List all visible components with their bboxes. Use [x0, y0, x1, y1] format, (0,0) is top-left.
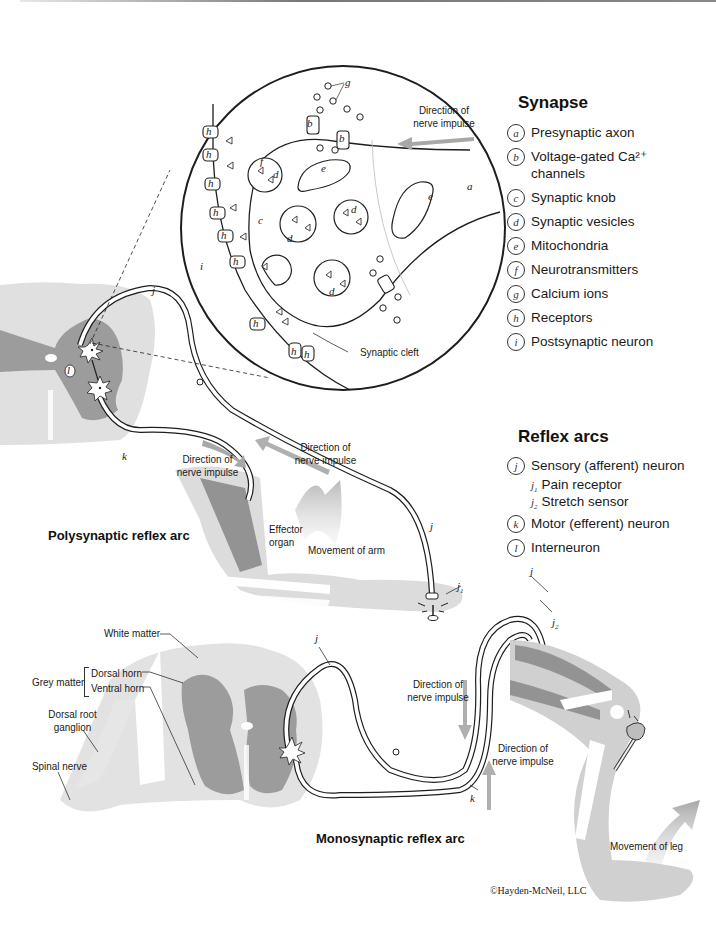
mono-label-j: j	[315, 632, 318, 644]
mono-label-j2: j2	[552, 616, 559, 631]
mono-label-j-leg: j	[530, 565, 533, 577]
copyright: ©Hayden-McNeil, LLC	[490, 885, 586, 896]
mono-direction-down-label: Direction of nerve impulse	[404, 678, 473, 704]
monosynaptic-leader-lines	[0, 0, 716, 931]
mono-label-k: k	[470, 792, 475, 804]
movement-of-leg-label: Movement of leg	[610, 840, 683, 853]
monosynaptic-title: Monosynaptic reflex arc	[316, 831, 465, 846]
mono-direction-up-label: Direction of nerve impulse	[489, 742, 558, 768]
